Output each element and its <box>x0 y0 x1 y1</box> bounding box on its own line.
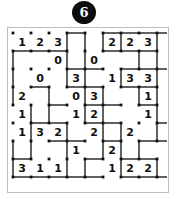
clue-number: 1 <box>51 163 65 174</box>
clue-number: 1 <box>69 145 83 156</box>
clue-number: 3 <box>69 73 83 84</box>
clue-number: 3 <box>15 163 29 174</box>
clue-number: 1 <box>69 109 83 120</box>
clue-number: 1 <box>33 163 47 174</box>
clue-number: 3 <box>141 73 155 84</box>
clue-number: 1 <box>15 109 29 120</box>
clue-number: 2 <box>105 145 119 156</box>
clue-number: 0 <box>51 55 65 66</box>
puzzle-number-badge: 6 <box>72 1 96 24</box>
clue-number: 1 <box>141 109 155 120</box>
clue-number: 1 <box>105 163 119 174</box>
clue-number: 3 <box>33 127 47 138</box>
puzzle-number-header: 6 <box>0 1 176 25</box>
clue-number: 1 <box>141 91 155 102</box>
clue-number: 2 <box>141 163 155 174</box>
clue-number: 3 <box>141 37 155 48</box>
clue-number: 3 <box>87 91 101 102</box>
clue-number: 2 <box>123 37 137 48</box>
clue-number: 3 <box>123 73 137 84</box>
clue-number: 2 <box>15 91 29 102</box>
clue-numbers-layer: 1232230003133203111211322212311122 <box>9 29 167 191</box>
clue-number: 1 <box>105 73 119 84</box>
clue-number: 0 <box>69 91 83 102</box>
puzzle-number-label: 6 <box>79 6 88 19</box>
clue-number: 2 <box>105 37 119 48</box>
clue-number: 2 <box>33 37 47 48</box>
clue-number: 3 <box>51 37 65 48</box>
clue-number: 0 <box>33 73 47 84</box>
slitherlink-puzzle: 6 1232230003133203111211322212311122 <box>0 0 176 199</box>
clue-number: 2 <box>123 127 137 138</box>
clue-number: 2 <box>87 127 101 138</box>
clue-number: 2 <box>87 109 101 120</box>
clue-number: 1 <box>15 37 29 48</box>
slitherlink-board[interactable]: 1232230003133203111211322212311122 <box>9 29 167 191</box>
clue-number: 2 <box>51 127 65 138</box>
clue-number: 0 <box>87 55 101 66</box>
clue-number: 1 <box>15 127 29 138</box>
clue-number: 2 <box>123 163 137 174</box>
